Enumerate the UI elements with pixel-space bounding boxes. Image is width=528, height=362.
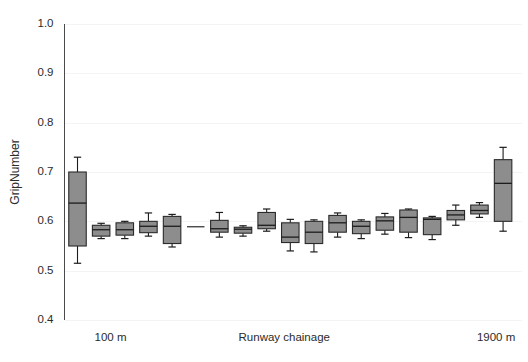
y-axis-tick-label: 0.9 [38,66,54,78]
box-iqr-rect [92,225,109,236]
box-iqr-rect [376,217,393,230]
box-plot-item [116,221,133,238]
box-iqr-rect [140,221,157,232]
box-plot-item [234,226,251,236]
box-plot-item [376,213,393,234]
box-plot-item [92,223,109,238]
box-iqr-rect [494,160,511,222]
y-axis-tick-label: 0.5 [38,264,54,276]
box-plot-item [494,147,511,231]
box-iqr-rect [69,172,86,246]
box-plot-item [305,220,322,252]
y-axis-tick-label: 1.0 [38,17,54,29]
box-iqr-rect [329,215,346,232]
box-plot-item [352,220,369,239]
box-plot-item [163,214,180,247]
box-iqr-rect [163,216,180,243]
x-axis-title: Runway chainage [239,331,330,343]
box-iqr-rect [400,210,417,232]
box-plot-item [423,216,440,239]
y-axis-tick-label: 0.8 [38,116,54,128]
x-axis-tick-label-left: 100 m [95,331,127,343]
box-iqr-rect [423,218,440,235]
box-plot-item [282,219,299,251]
y-axis-title: GripNumber [8,139,22,204]
box-plot-item [140,213,157,236]
box-iqr-rect [211,220,228,232]
box-plot-item [329,213,346,237]
y-axis-tick-label: 0.6 [38,214,54,226]
box-plot-item [471,203,488,218]
chart-canvas: 1.00.90.80.70.60.50.4 100 m1900 m GripNu… [0,0,528,362]
box-plots-group [69,147,512,263]
box-iqr-rect [258,212,275,228]
y-axis-tick-label: 0.7 [38,165,54,177]
box-iqr-rect [352,221,369,233]
box-plot-item [400,209,417,238]
box-plot-item [69,157,86,263]
box-iqr-rect [234,227,251,233]
box-iqr-rect [116,223,133,235]
box-iqr-rect [282,223,299,243]
gridlines-group [65,25,523,321]
x-axis-tick-label-right: 1900 m [477,331,515,343]
box-iqr-rect [471,205,488,214]
box-plot-item [258,209,275,231]
box-plot-item [211,212,228,237]
y-axis-tick-labels: 1.00.90.80.70.60.50.4 [38,17,55,325]
y-axis-tick-label: 0.4 [38,313,55,325]
box-plot-chart: 1.00.90.80.70.60.50.4 100 m1900 m GripNu… [0,0,528,362]
